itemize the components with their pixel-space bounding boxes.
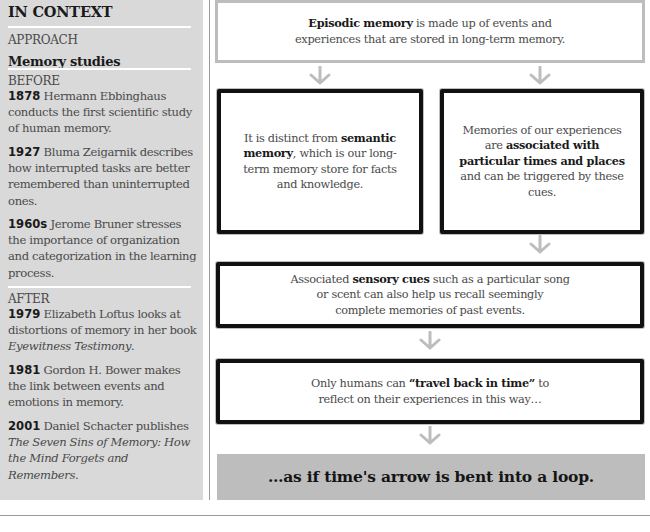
approach-label: APPROACH: [8, 33, 78, 47]
episodic-memory-box: Episodic memory is made up of events and…: [215, 0, 645, 63]
book-title: Eyewitness Testimony: [8, 339, 131, 353]
conclusion-box: …as if time's arrow is bent into a loop.: [217, 454, 645, 500]
box-bold-text: sensory cues: [352, 272, 429, 286]
sidebar-divider: [8, 68, 191, 70]
semantic-memory-box: It is distinct from semantic memory, whi…: [217, 89, 423, 234]
timeline-entry-1979: 1979 Elizabeth Loftus looks at distortio…: [8, 306, 200, 355]
arrow-down-icon: [419, 331, 441, 351]
book-title: The Seven Sins of Memory: How the Mind F…: [8, 435, 190, 481]
sidebar-divider: [8, 286, 191, 288]
timeline-entry-2001: 2001 Daniel Schacter publishes The Seven…: [8, 418, 200, 483]
conclusion-text: …as if time's arrow is bent into a loop.: [268, 469, 594, 485]
sidebar-title: IN CONTEXT: [8, 3, 112, 20]
arrow-down-icon: [419, 426, 441, 446]
box-body-text: Associated: [290, 273, 352, 286]
approach-value: Memory studies: [8, 54, 120, 69]
timeline-entry-1981: 1981 Gordon H. Bower makes the link betw…: [8, 362, 200, 411]
box-text: Episodic memory is made up of events and…: [278, 16, 582, 47]
box-text: Memories of our experiences are associat…: [456, 123, 628, 201]
sidebar-divider: [8, 26, 191, 28]
entry-year: 1960s: [8, 217, 47, 231]
box-body-text: It is distinct from: [244, 132, 341, 145]
travel-back-in-time-box: Only humans can “travel back in time” to…: [216, 359, 644, 424]
entry-year: 1981: [8, 363, 40, 377]
entry-year: 1979: [8, 307, 40, 321]
entry-year: 1927: [8, 145, 40, 159]
associated-times-places-box: Memories of our experiences are associat…: [440, 89, 644, 234]
sensory-cues-box: Associated sensory cues such as a partic…: [216, 262, 644, 328]
entry-year: 1878: [8, 89, 40, 103]
before-label: BEFORE: [8, 74, 60, 88]
arrow-down-icon: [529, 66, 551, 86]
box-text: Associated sensory cues such as a partic…: [290, 272, 570, 319]
after-label: AFTER: [8, 292, 49, 306]
timeline-entry-1878: 1878 Hermann Ebbinghaus conducts the fir…: [8, 88, 200, 137]
box-body-text: Only humans can: [311, 377, 409, 390]
timeline-entry-1927: 1927 Bluma Zeigarnik describes how inter…: [8, 144, 200, 209]
arrow-down-icon: [309, 66, 331, 86]
box-bold-text: “travel back in time”: [409, 376, 535, 390]
box-body-text: and can be triggered by these cues.: [460, 170, 623, 199]
entry-tail: .: [75, 468, 78, 482]
entry-tail: .: [131, 339, 134, 353]
arrow-down-icon: [529, 235, 551, 255]
in-context-sidebar: IN CONTEXT APPROACH Memory studies BEFOR…: [0, 0, 203, 500]
box-text: Only humans can “travel back in time” to…: [300, 376, 560, 407]
column-divider: [209, 0, 210, 500]
page-bottom-rule: [0, 515, 650, 516]
box-bold-text: Episodic memory: [308, 16, 412, 30]
entry-text: Daniel Schacter publishes: [40, 419, 188, 433]
entry-year: 2001: [8, 419, 40, 433]
timeline-entry-1960s: 1960s Jerome Bruner stresses the importa…: [8, 216, 200, 281]
box-text: It is distinct from semantic memory, whi…: [237, 131, 403, 193]
